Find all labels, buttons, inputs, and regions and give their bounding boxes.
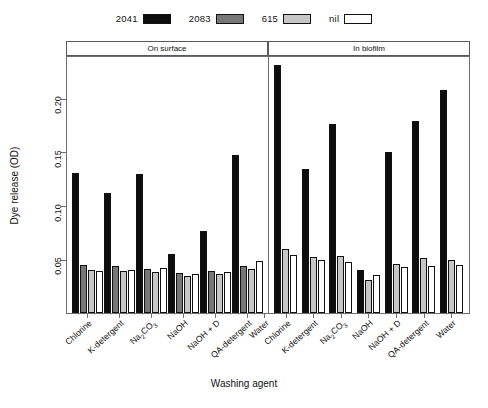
chart-legend: 20412083615nil [0, 13, 488, 24]
bar-615 [248, 269, 255, 313]
bar-group [274, 57, 297, 313]
bar-nil [96, 271, 103, 313]
legend-label: 2041 [116, 13, 138, 24]
panel-in-biofilm [268, 57, 469, 313]
bar-2041 [385, 152, 392, 313]
bar-nil [224, 272, 231, 313]
bar-615 [420, 258, 427, 313]
bar-group [104, 57, 135, 313]
bar-2041 [329, 124, 336, 313]
legend-swatch [143, 14, 171, 24]
bar-2041 [72, 173, 79, 313]
legend-swatch [216, 14, 244, 24]
legend-entry: 615 [262, 13, 311, 24]
x-axis-title: Washing agent [0, 378, 488, 389]
bar-2041 [200, 231, 207, 313]
bar-2083 [144, 269, 151, 313]
plot-frame [66, 56, 470, 314]
bar-nil [373, 275, 380, 313]
bar-nil [256, 261, 263, 313]
bar-615 [152, 272, 159, 313]
bar-2041 [412, 121, 419, 313]
bar-2041 [440, 90, 447, 313]
bar-group [136, 57, 167, 313]
y-tick-label: 0.05 [53, 249, 63, 283]
legend-label: 615 [262, 13, 278, 24]
bar-group [412, 57, 435, 313]
x-axis-labels: ChlorineK-detergentNa2CO3NaOHNaOH + DQA-… [0, 316, 488, 378]
bar-615 [282, 249, 289, 314]
legend-entry: nil [329, 13, 372, 24]
bar-2041 [232, 155, 239, 313]
bar-nil [318, 260, 325, 313]
bar-2041 [357, 270, 364, 313]
y-tick-label: 0.15 [53, 142, 63, 176]
bar-615 [393, 264, 400, 313]
dye-release-bar-chart: 20412083615nil On surfaceIn biofilm Dye … [0, 0, 488, 408]
bar-615 [448, 260, 455, 313]
bar-group [232, 57, 263, 313]
bar-2041 [104, 193, 111, 313]
bar-nil [401, 267, 408, 313]
legend-label: 2083 [189, 13, 211, 24]
panel-on-surface [67, 57, 268, 313]
bar-nil [456, 265, 463, 313]
bar-group [302, 57, 325, 313]
panel-strip-row: On surfaceIn biofilm [66, 41, 470, 56]
bar-615 [88, 270, 95, 313]
bar-group [168, 57, 199, 313]
bar-group [385, 57, 408, 313]
bar-2083 [176, 273, 183, 313]
bar-nil [345, 262, 352, 313]
bar-615 [337, 256, 344, 313]
bar-group [72, 57, 103, 313]
panel-strip-label: On surface [66, 41, 268, 56]
legend-label: nil [329, 13, 339, 24]
bar-nil [428, 266, 435, 313]
bar-615 [216, 274, 223, 313]
bar-2083 [208, 271, 215, 313]
panel-divider [268, 57, 269, 313]
bar-2041 [274, 65, 281, 313]
bar-nil [290, 255, 297, 313]
bar-615 [310, 257, 317, 313]
bar-nil [192, 274, 199, 313]
bar-2083 [80, 265, 87, 313]
legend-entry: 2041 [116, 13, 171, 24]
bar-2083 [240, 266, 247, 313]
bar-group [329, 57, 352, 313]
bar-nil [128, 270, 135, 313]
y-tick-label: 0.10 [53, 196, 63, 230]
bar-615 [120, 271, 127, 313]
bar-group [357, 57, 380, 313]
bar-2083 [112, 266, 119, 313]
bar-2041 [136, 174, 143, 313]
bar-group [200, 57, 231, 313]
legend-swatch [283, 14, 311, 24]
bar-2041 [168, 254, 175, 313]
y-axis: 0.050.100.150.20 [0, 56, 66, 314]
bar-615 [184, 276, 191, 313]
legend-swatch [344, 14, 372, 24]
bar-nil [160, 268, 167, 313]
bar-2041 [302, 169, 309, 313]
bar-group [440, 57, 463, 313]
bar-615 [365, 280, 372, 313]
y-tick-label: 0.20 [53, 88, 63, 122]
legend-entry: 2083 [189, 13, 244, 24]
panel-strip-label: In biofilm [268, 41, 470, 56]
